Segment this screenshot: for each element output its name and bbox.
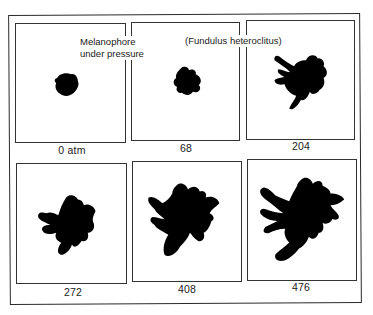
label-panel-2: 68	[146, 142, 226, 154]
label-panel-3: 204	[261, 140, 341, 152]
figure-title-right: (Fundulus heteroclitus)	[183, 35, 284, 47]
label-panel-5: 408	[147, 283, 227, 295]
label-panel-4: 272	[33, 286, 113, 298]
figure-title-left: Melanophore under pressure	[78, 36, 146, 60]
title-line-1: Melanophore	[80, 36, 144, 48]
label-panel-6: 476	[261, 281, 341, 293]
panel-476-atm	[247, 159, 357, 281]
title-line-2: under pressure	[80, 48, 144, 60]
melanophore-highly-dispersed-icon	[133, 162, 241, 281]
panel-408-atm	[132, 161, 242, 282]
panel-272-atm	[16, 163, 127, 284]
melanophore-dispersed-icon	[17, 164, 126, 283]
label-panel-1: 0 atm	[32, 144, 112, 156]
melanophore-fully-dispersed-icon	[248, 160, 356, 280]
